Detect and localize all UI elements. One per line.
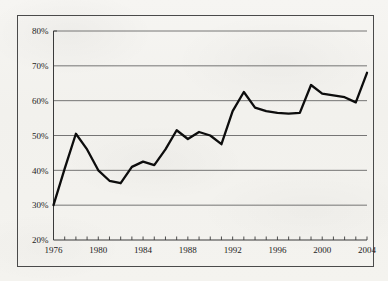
x-tick-label-2000: 2000 <box>313 245 332 255</box>
series-line-1 <box>54 73 368 205</box>
y-tick-label-80: 80% <box>32 26 49 36</box>
x-tick-label-1976: 1976 <box>45 245 64 255</box>
y-tick-label-40: 40% <box>32 166 49 176</box>
y-tick-label-20: 20% <box>32 235 49 245</box>
y-axis-tick-labels: 20%30%40%50%60%70%80% <box>32 26 49 245</box>
line-chart: 20%30%40%50%60%70%80% 197619801984198819… <box>0 0 388 281</box>
x-tick-label-1984: 1984 <box>134 245 153 255</box>
x-tick-label-1996: 1996 <box>268 245 287 255</box>
y-tick-label-70: 70% <box>32 61 49 71</box>
x-tick-label-2004: 2004 <box>358 245 377 255</box>
data-series-line <box>54 73 368 205</box>
y-tick-label-50: 50% <box>32 131 49 141</box>
x-tick-label-1992: 1992 <box>224 245 242 255</box>
x-tick-label-1988: 1988 <box>179 245 198 255</box>
y-tick-label-60: 60% <box>32 96 49 106</box>
y-tick-label-30: 30% <box>32 200 49 210</box>
x-tick-label-1980: 1980 <box>89 245 108 255</box>
x-axis-tick-labels: 19761980198419881992199620002004 <box>45 245 377 255</box>
gridlines <box>54 31 368 205</box>
chart-screenshot: 20%30%40%50%60%70%80% 197619801984198819… <box>0 0 388 281</box>
